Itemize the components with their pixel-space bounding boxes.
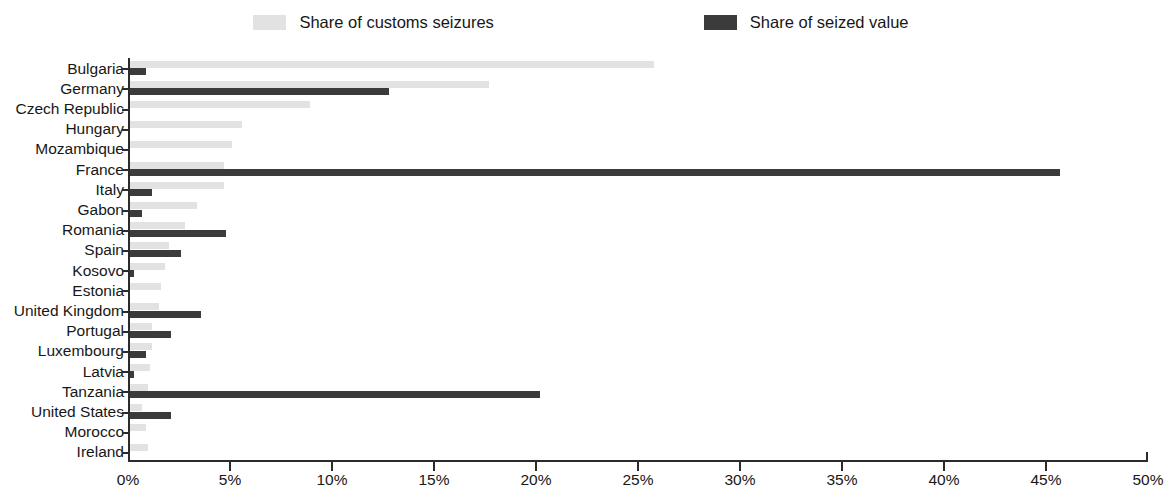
y-axis-label: Spain xyxy=(0,242,124,258)
y-axis-label: Bulgaria xyxy=(0,61,124,77)
bar-seized-value xyxy=(130,210,142,217)
y-axis-label: Hungary xyxy=(0,121,124,137)
x-axis-tick xyxy=(841,462,843,471)
bar-row xyxy=(130,58,1148,78)
bar-customs-seizures xyxy=(130,343,152,350)
x-axis-tick xyxy=(535,462,537,471)
legend-label-customs-seizures: Share of customs seizures xyxy=(299,14,493,31)
bar-seized-value xyxy=(130,250,181,257)
bar-customs-seizures xyxy=(130,81,489,88)
bar-seized-value xyxy=(130,311,201,318)
x-axis-label: 20% xyxy=(496,472,576,488)
bar-customs-seizures xyxy=(130,303,159,310)
bar-customs-seizures xyxy=(130,283,161,290)
x-axis-right-cap xyxy=(1146,452,1148,462)
x-axis-tick xyxy=(1045,462,1047,471)
bar-seized-value xyxy=(130,230,226,237)
bar-row xyxy=(130,442,1148,462)
x-axis-label: 35% xyxy=(802,472,882,488)
x-axis-label: 40% xyxy=(904,472,984,488)
light-gray-swatch-icon xyxy=(253,15,286,30)
x-axis-label: 15% xyxy=(394,472,474,488)
y-axis-label: France xyxy=(0,162,124,178)
y-axis-label: Estonia xyxy=(0,283,124,299)
bar-seized-value xyxy=(130,169,1060,176)
legend-label-seized-value: Share of seized value xyxy=(750,14,909,31)
x-axis-label: 0% xyxy=(88,472,168,488)
y-axis-label: Portugal xyxy=(0,323,124,339)
x-axis-label: 30% xyxy=(700,472,780,488)
bar-customs-seizures xyxy=(130,121,242,128)
bar-row xyxy=(130,260,1148,280)
bar-row xyxy=(130,98,1148,118)
bar-customs-seizures xyxy=(130,141,232,148)
x-axis-label: 50% xyxy=(1108,472,1168,488)
x-axis-tick xyxy=(943,462,945,471)
y-axis-label: Morocco xyxy=(0,424,124,440)
y-axis-label: Ireland xyxy=(0,444,124,460)
bar-row xyxy=(130,341,1148,361)
chart-plot-area xyxy=(128,58,1148,462)
bar-row xyxy=(130,321,1148,341)
x-axis-tick xyxy=(433,462,435,471)
bar-seized-value xyxy=(130,189,152,196)
bar-row xyxy=(130,361,1148,381)
bar-row xyxy=(130,220,1148,240)
bar-row xyxy=(130,401,1148,421)
bar-customs-seizures xyxy=(130,384,148,391)
bar-customs-seizures xyxy=(130,162,224,169)
bar-row xyxy=(130,280,1148,300)
legend-entry-customs-seizures: Share of customs seizures xyxy=(253,14,493,31)
bar-seized-value xyxy=(130,270,134,277)
bar-customs-seizures xyxy=(130,424,146,431)
bar-customs-seizures xyxy=(130,182,224,189)
x-axis-tick xyxy=(637,462,639,471)
y-axis-label: Germany xyxy=(0,81,124,97)
y-axis-label: Mozambique xyxy=(0,141,124,157)
y-axis-label: Tanzania xyxy=(0,384,124,400)
chart-legend: Share of customs seizures Share of seize… xyxy=(0,0,1162,44)
bar-customs-seizures xyxy=(130,61,654,68)
bar-customs-seizures xyxy=(130,364,150,371)
bar-seized-value xyxy=(130,88,389,95)
y-axis-label: Latvia xyxy=(0,364,124,380)
x-axis-label: 45% xyxy=(1006,472,1086,488)
bar-customs-seizures xyxy=(130,404,142,411)
bar-customs-seizures xyxy=(130,444,148,451)
bar-row xyxy=(130,139,1148,159)
bar-row xyxy=(130,240,1148,260)
bar-row xyxy=(130,199,1148,219)
legend-entry-seized-value: Share of seized value xyxy=(704,14,909,31)
bar-seized-value xyxy=(130,412,171,419)
bar-customs-seizures xyxy=(130,242,169,249)
y-axis-label: Kosovo xyxy=(0,263,124,279)
x-axis-tick xyxy=(229,462,231,471)
dark-gray-swatch-icon xyxy=(704,15,737,30)
x-axis-label: 25% xyxy=(598,472,678,488)
x-axis-tick xyxy=(739,462,741,471)
bar-rows-container xyxy=(130,58,1148,460)
y-axis-label: Luxembourg xyxy=(0,343,124,359)
bar-customs-seizures xyxy=(130,263,165,270)
y-axis-label: Gabon xyxy=(0,202,124,218)
bar-seized-value xyxy=(130,391,540,398)
x-axis-label: 10% xyxy=(292,472,372,488)
bar-seized-value xyxy=(130,331,171,338)
bar-row xyxy=(130,159,1148,179)
y-axis-label: United States xyxy=(0,404,124,420)
bar-customs-seizures xyxy=(130,202,197,209)
bar-customs-seizures xyxy=(130,323,152,330)
y-axis-label: Italy xyxy=(0,182,124,198)
y-axis-label: Romania xyxy=(0,222,124,238)
bar-customs-seizures xyxy=(130,101,310,108)
y-axis-label: Czech Republic xyxy=(0,101,124,117)
bar-row xyxy=(130,119,1148,139)
bar-seized-value xyxy=(130,351,146,358)
bar-row xyxy=(130,381,1148,401)
bar-row xyxy=(130,422,1148,442)
y-axis-category-labels: BulgariaGermanyCzech RepublicHungaryMoza… xyxy=(0,58,124,462)
x-axis-label: 5% xyxy=(190,472,270,488)
bar-customs-seizures xyxy=(130,222,185,229)
y-axis-label: United Kingdom xyxy=(0,303,124,319)
bar-seized-value xyxy=(130,68,146,75)
